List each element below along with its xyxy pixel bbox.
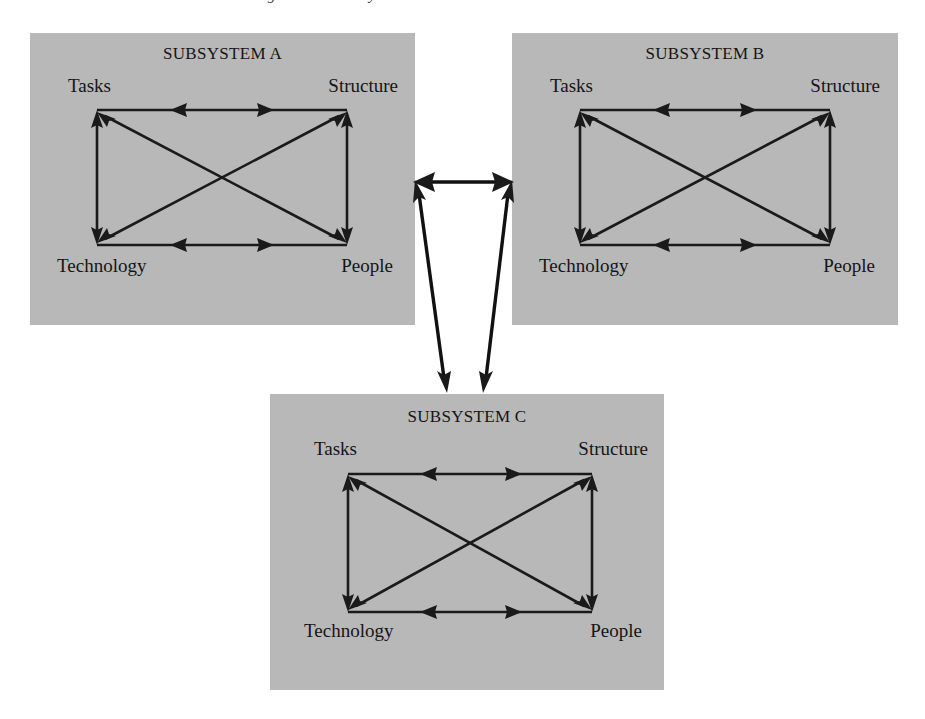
- subsystem-box-a[interactable]: SUBSYSTEM A Tasks Structure Technology P…: [30, 33, 415, 325]
- arrowhead-right: [740, 238, 757, 252]
- arrowhead-left: [420, 605, 437, 619]
- arrowhead-right: [492, 172, 514, 192]
- arrowhead-right: [505, 605, 522, 619]
- subsystem-c-link-graph: [270, 394, 664, 690]
- subsystem-box-c[interactable]: SUBSYSTEM C Tasks Structure Technology P…: [270, 394, 664, 690]
- connector-b-c: [486, 194, 508, 378]
- arrowhead-down: [437, 371, 451, 393]
- arrowhead-right: [740, 103, 757, 117]
- connector-a-c: [419, 194, 444, 378]
- arrowhead-right: [257, 238, 274, 252]
- arrowhead-left: [653, 238, 670, 252]
- arrowhead-right: [257, 103, 274, 117]
- arrowhead-left: [653, 103, 670, 117]
- arrowhead-left: [170, 103, 187, 117]
- arrowhead-left: [420, 467, 437, 481]
- subsystem-b-link-graph: [512, 33, 898, 325]
- arrowhead-left: [413, 172, 435, 192]
- subsystem-a-link-graph: [30, 33, 415, 325]
- cropped-header-text: organization as a system: [0, 0, 925, 5]
- arrowhead-down: [479, 371, 493, 393]
- arrowhead-right: [505, 467, 522, 481]
- diagram-canvas: organization as a system SUBSYSTEM A Tas…: [0, 0, 925, 719]
- subsystem-box-b[interactable]: SUBSYSTEM B Tasks Structure Technology P…: [512, 33, 898, 325]
- arrowhead-left: [170, 238, 187, 252]
